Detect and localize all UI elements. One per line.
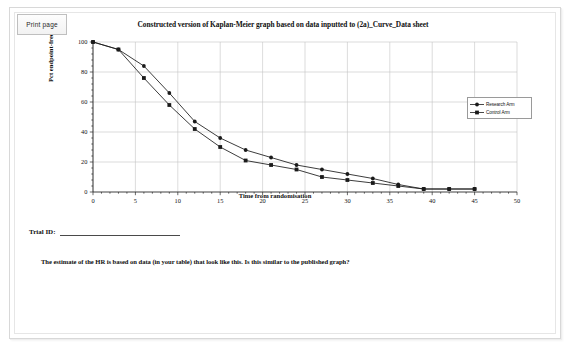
svg-text:80: 80 bbox=[81, 68, 87, 75]
legend-label-research-arm: Research Arm bbox=[486, 102, 515, 107]
svg-text:45: 45 bbox=[471, 197, 477, 204]
svg-text:0: 0 bbox=[84, 188, 87, 195]
svg-text:25: 25 bbox=[302, 197, 308, 204]
hr-question-text: The estimate of the HR is based on data … bbox=[41, 258, 501, 265]
legend-label-control-arm: Control Arm bbox=[486, 110, 510, 115]
plot-area: 05101520253035404550020406080100 bbox=[55, 36, 540, 216]
svg-text:20: 20 bbox=[259, 197, 265, 204]
y-axis-title: Pct endpoint-free bbox=[47, 33, 54, 82]
print-page-label: Print page bbox=[26, 21, 58, 28]
svg-text:40: 40 bbox=[81, 128, 87, 135]
svg-text:10: 10 bbox=[175, 197, 181, 204]
svg-text:30: 30 bbox=[344, 197, 350, 204]
chart-title: Constructed version of Kaplan-Meier grap… bbox=[83, 20, 483, 29]
svg-text:100: 100 bbox=[78, 38, 88, 45]
svg-text:40: 40 bbox=[429, 197, 435, 204]
chart-legend: Research Arm Control Arm bbox=[467, 97, 532, 119]
kaplan-meier-chart: Constructed version of Kaplan-Meier grap… bbox=[55, 20, 540, 220]
legend-key-control-arm bbox=[470, 109, 484, 116]
legend-item-research-arm: Research Arm bbox=[470, 100, 529, 108]
svg-text:60: 60 bbox=[81, 98, 87, 105]
svg-text:15: 15 bbox=[217, 197, 223, 204]
legend-key-research-arm bbox=[470, 101, 484, 108]
data-series-layer bbox=[91, 40, 476, 191]
trial-id-row: Trial ID: bbox=[29, 226, 180, 236]
svg-text:35: 35 bbox=[387, 197, 393, 204]
svg-text:5: 5 bbox=[134, 197, 137, 204]
svg-text:50: 50 bbox=[514, 197, 520, 204]
trial-id-input[interactable] bbox=[60, 226, 180, 236]
legend-item-control-arm: Control Arm bbox=[470, 108, 529, 116]
gridlines bbox=[93, 42, 517, 192]
axis-ticks bbox=[90, 42, 517, 195]
print-page-button[interactable]: Print page bbox=[17, 14, 67, 35]
svg-text:20: 20 bbox=[81, 158, 87, 165]
plot-svg: 05101520253035404550020406080100 bbox=[55, 36, 540, 216]
svg-text:0: 0 bbox=[91, 197, 94, 204]
trial-id-label: Trial ID: bbox=[29, 228, 56, 236]
axis-tick-labels: 05101520253035404550020406080100 bbox=[78, 38, 520, 204]
